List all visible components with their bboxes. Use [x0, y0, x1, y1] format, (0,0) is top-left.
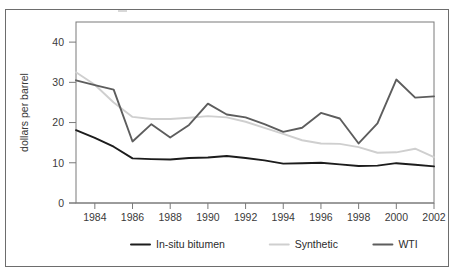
legend-label: In-situ bitumen: [156, 238, 225, 250]
x-tick-label: 1988: [159, 211, 183, 223]
x-tick-label: 1990: [196, 211, 220, 223]
legend-label: WTI: [398, 238, 417, 250]
x-tick-label: 2002: [422, 211, 446, 223]
plot-box: [76, 22, 434, 203]
y-tick-label: 30: [52, 76, 64, 88]
x-tick-label: 1994: [272, 211, 296, 223]
x-tick-label: 1992: [234, 211, 258, 223]
x-tick-label: 1986: [121, 211, 145, 223]
x-tick-label: 1996: [309, 211, 333, 223]
chart-canvas: 0102030401984198619881990199219941996199…: [0, 0, 456, 275]
y-axis-title: dollars per barrel: [18, 73, 30, 152]
y-tick-label: 0: [58, 197, 64, 209]
x-tick-label: 2000: [385, 211, 409, 223]
y-tick-label: 40: [52, 36, 64, 48]
line-chart: 0102030401984198619881990199219941996199…: [0, 0, 456, 275]
x-tick-label: 1998: [347, 211, 371, 223]
x-tick-label: 1984: [83, 211, 107, 223]
series-line-wti: [76, 80, 434, 144]
legend-label: Synthetic: [295, 238, 338, 250]
y-tick-label: 10: [52, 157, 64, 169]
y-tick-label: 20: [52, 116, 64, 128]
